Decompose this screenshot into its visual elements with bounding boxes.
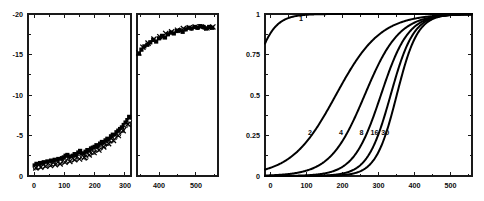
sigmoid-curve: [265, 14, 472, 43]
y-tick-label: 0: [256, 172, 260, 181]
x-tick-label: 400: [408, 181, 420, 190]
right-panel-curve-labels: 12481630: [299, 14, 389, 136]
y-tick-label: 1: [256, 10, 260, 19]
curve-label: 30: [381, 128, 389, 137]
y-tick-label: 0.25: [246, 131, 260, 140]
x-tick-label: 0: [268, 181, 272, 190]
y-tick-label: 0.5: [250, 91, 260, 100]
x-tick-label: 500: [444, 181, 456, 190]
curve-label: 2: [308, 128, 312, 137]
right-panel-tick-labels: 00.250.50.7510100200300400500: [246, 10, 456, 190]
x-tick-label: 300: [372, 181, 384, 190]
curve-label: 1: [299, 14, 303, 23]
x-tick-label: 200: [336, 181, 348, 190]
curve-label: 4: [339, 128, 343, 137]
curve-label: 8: [359, 128, 363, 137]
sigmoid-curve: [265, 14, 472, 175]
right-panel: 00.250.50.7510100200300400500 12481630: [0, 0, 484, 201]
figure-root: -20-15-10-500100200300400500 00.250.50.7…: [0, 0, 484, 201]
x-tick-label: 100: [300, 181, 312, 190]
y-tick-label: 0.75: [246, 50, 260, 59]
sigmoid-curve: [265, 14, 472, 169]
curve-label: 16: [370, 128, 378, 137]
right-panel-curves: [265, 14, 472, 176]
right-panel-svg: 00.250.50.7510100200300400500 12481630: [0, 0, 484, 201]
